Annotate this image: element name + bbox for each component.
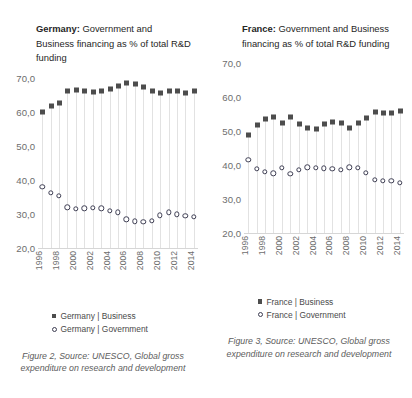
x-tick-label: 2012 xyxy=(375,236,385,255)
stem-line xyxy=(282,123,283,234)
business-data-point xyxy=(108,86,113,91)
legend-label: France | Government xyxy=(267,310,346,320)
business-data-point xyxy=(246,132,251,137)
business-data-point xyxy=(305,126,310,131)
government-data-point xyxy=(338,167,343,172)
y-tick-label: 40,0 xyxy=(222,160,241,171)
figure-panel-france: France: Government and Business financin… xyxy=(206,0,412,398)
stem-line xyxy=(51,106,52,247)
legend-item-government: Germany | Government xyxy=(52,323,206,336)
x-tick-label: 1996 xyxy=(240,236,250,255)
stem-line xyxy=(59,103,60,248)
data-column xyxy=(185,78,186,248)
business-data-point xyxy=(356,121,361,126)
business-data-point xyxy=(364,116,369,121)
data-column xyxy=(324,63,325,233)
government-data-point xyxy=(48,190,53,195)
data-column xyxy=(59,78,60,248)
government-data-point xyxy=(166,210,171,215)
stem-line xyxy=(118,86,119,248)
x-tick-label: 2002 xyxy=(85,251,95,270)
data-column xyxy=(135,78,136,248)
x-tick-label: 2010 xyxy=(152,251,162,270)
data-column xyxy=(152,78,153,248)
government-data-point xyxy=(124,217,129,222)
business-data-point xyxy=(57,101,62,106)
data-column xyxy=(110,78,111,248)
government-data-point xyxy=(380,178,385,183)
filled-square-marker-icon xyxy=(258,299,262,303)
x-axis-line xyxy=(38,248,198,249)
data-column xyxy=(349,63,350,233)
business-data-point xyxy=(280,120,285,125)
y-tick-label: 20,0 xyxy=(222,228,241,239)
open-circle-marker-icon xyxy=(52,327,57,332)
data-column xyxy=(366,63,367,233)
chart-germany: 20,030,040,050,060,070,0 199619982000200… xyxy=(0,72,206,268)
business-data-point xyxy=(116,83,121,88)
government-data-point xyxy=(347,165,352,170)
stem-line xyxy=(383,113,384,233)
stem-line xyxy=(84,91,85,248)
business-data-point xyxy=(192,89,197,94)
government-data-point xyxy=(115,210,120,215)
business-data-point xyxy=(183,91,188,96)
data-column xyxy=(169,78,170,248)
stem-line xyxy=(194,91,195,247)
business-data-point xyxy=(389,111,394,116)
data-column xyxy=(375,63,376,233)
stem-line xyxy=(316,129,317,233)
x-tick-label: 2006 xyxy=(324,236,334,255)
data-column xyxy=(93,78,94,248)
stem-line xyxy=(307,128,308,233)
x-tick-label: 2014 xyxy=(392,236,402,255)
y-tick-label: 20,0 xyxy=(16,242,35,253)
stem-line xyxy=(110,89,111,248)
x-tick-label: 2002 xyxy=(291,236,301,255)
business-data-point xyxy=(99,88,104,93)
business-data-point xyxy=(330,119,335,124)
x-tick-label: 1998 xyxy=(257,236,267,255)
stem-line xyxy=(185,93,186,247)
business-data-point xyxy=(49,104,54,109)
x-tick-label: 2004 xyxy=(102,251,112,270)
chart-legend: Germany | Business Germany | Government xyxy=(0,310,206,336)
government-data-point xyxy=(271,171,276,176)
stem-line xyxy=(101,91,102,248)
y-tick-label: 50,0 xyxy=(16,140,35,151)
legend-item-business: Germany | Business xyxy=(52,310,206,323)
business-data-point xyxy=(288,114,293,119)
data-column xyxy=(316,63,317,233)
page-title: Germany: Government and Business financi… xyxy=(36,22,192,66)
business-data-point xyxy=(347,126,352,131)
data-column xyxy=(160,78,161,248)
data-column xyxy=(248,63,249,233)
legend-label: France | Business xyxy=(266,297,333,307)
business-data-point xyxy=(91,90,96,95)
government-data-point xyxy=(56,193,61,198)
business-data-point xyxy=(297,122,302,127)
stem-line xyxy=(169,91,170,248)
x-tick-label: 2008 xyxy=(135,251,145,270)
y-tick-label: 70,0 xyxy=(222,58,241,69)
business-data-point xyxy=(40,109,45,114)
figures-page: Germany: Government and Business financi… xyxy=(0,0,412,398)
title-country: Germany: xyxy=(36,23,80,34)
open-circle-marker-icon xyxy=(258,312,263,317)
government-data-point xyxy=(107,208,112,213)
data-column xyxy=(265,63,266,233)
x-tick-label: 2010 xyxy=(358,236,368,255)
x-axis-labels: 1996199820002002200420062008201020122014 xyxy=(38,251,198,291)
government-data-point xyxy=(157,212,162,217)
x-axis-labels: 1996199820002002200420062008201020122014 xyxy=(244,236,404,276)
stem-line xyxy=(257,125,258,233)
data-column xyxy=(101,78,102,248)
government-data-point xyxy=(191,214,196,219)
government-data-point xyxy=(288,171,293,176)
government-data-point xyxy=(397,180,402,185)
y-tick-label: 60,0 xyxy=(222,92,241,103)
business-data-point xyxy=(167,89,172,94)
x-tick-label: 2014 xyxy=(186,251,196,270)
government-data-point xyxy=(363,170,368,175)
government-data-point xyxy=(141,219,146,224)
